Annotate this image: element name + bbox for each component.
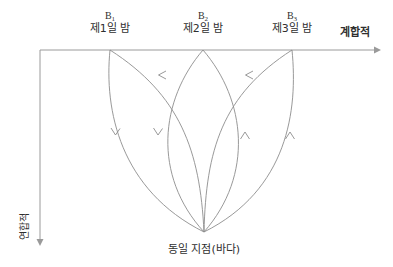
curve-b3-inner <box>204 50 292 232</box>
arrow-down-inner-left-curve-icon <box>154 128 163 135</box>
node-label-b2: B2 제2일 밤 <box>183 10 224 35</box>
node-caption-b1: 제1일 밤 <box>90 23 131 35</box>
node-caption-b2: 제2일 밤 <box>183 23 224 35</box>
curve-b1-outer-left <box>109 50 204 232</box>
curve-b2-left <box>168 50 204 232</box>
x-axis-arrowhead <box>374 47 381 54</box>
y-axis-label: 연합적 <box>16 213 31 240</box>
arrow-left-b3-to-b2-icon <box>246 71 254 79</box>
node-subscript-b3: 3 <box>294 15 298 23</box>
curve-b1-inner <box>110 50 204 232</box>
node-label-b3: B3 제3일 밤 <box>272 10 313 35</box>
x-axis-label: 계합적 <box>340 23 370 39</box>
diagram-canvas: B1 제1일 밤 B2 제2일 밤 B3 제3일 밤 계합적 연합적 동일 지점… <box>0 0 393 267</box>
curve-b2-right <box>203 50 238 232</box>
node-subscript-b2: 2 <box>205 15 209 23</box>
node-subscript-b1: 1 <box>112 15 116 23</box>
y-axis-arrowhead <box>37 239 44 246</box>
node-label-b1: B1 제1일 밤 <box>90 10 131 35</box>
axes-group <box>37 47 382 247</box>
node-symbol-b3: B3 <box>272 10 313 22</box>
arrow-left-b2-to-b1-icon <box>159 71 167 79</box>
arrowheads-group <box>111 71 295 139</box>
diagram-svg <box>0 0 393 267</box>
node-symbol-b2: B2 <box>183 10 224 22</box>
node-symbol-b1: B1 <box>90 10 131 22</box>
arrow-up-inner-right-curve-icon <box>241 132 250 139</box>
arrow-down-left-curve-icon <box>111 128 120 135</box>
convergence-point-label: 동일 지점(바다) <box>168 240 240 256</box>
node-caption-b3: 제3일 밤 <box>272 23 313 35</box>
curves-group <box>109 50 294 232</box>
